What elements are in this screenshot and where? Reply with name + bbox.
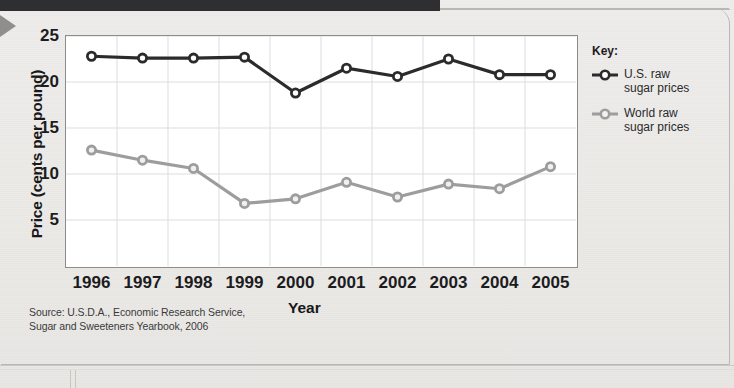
- legend-item-us-raw-sugar-prices: U.S. raw sugar prices: [592, 67, 730, 95]
- x-axis-tick-label: 2002: [379, 273, 417, 293]
- data-point: [138, 156, 146, 164]
- data-point: [393, 72, 401, 80]
- data-point: [546, 71, 554, 79]
- y-axis-tick-label: 5: [50, 210, 59, 230]
- data-point: [393, 193, 401, 201]
- data-point: [444, 55, 452, 63]
- chart-legend: Key: U.S. raw sugar prices World raw sug…: [592, 44, 730, 145]
- x-axis-tick-label: 1997: [124, 273, 162, 293]
- x-axis-tick-label: 1996: [73, 273, 111, 293]
- x-axis-title: Year: [288, 299, 321, 317]
- data-point: [240, 53, 248, 61]
- y-axis-tick-label: 25: [40, 26, 59, 46]
- x-axis-tick-label: 2001: [328, 273, 366, 293]
- x-axis-tick-label: 2003: [430, 273, 468, 293]
- legend-marker-light-icon: [592, 107, 618, 121]
- y-axis-tick-label: 20: [40, 72, 59, 92]
- data-point: [342, 64, 350, 72]
- data-point: [495, 71, 503, 79]
- source-line-2: Sugar and Sweeteners Yearbook, 2006: [29, 319, 245, 333]
- legend-label-world: World raw sugar prices: [624, 106, 689, 134]
- legend-marker-dark-icon: [592, 68, 618, 82]
- plot-svg: [66, 36, 576, 266]
- data-point: [138, 54, 146, 62]
- data-point: [291, 195, 299, 203]
- x-axis-tick-label: 1998: [175, 273, 213, 293]
- data-point: [342, 178, 350, 186]
- y-axis-title: Price (cents per pound): [28, 29, 46, 279]
- data-point: [291, 89, 299, 97]
- plot-area: 5101520251996199719981999200020012002200…: [65, 35, 578, 268]
- y-axis-tick-label: 10: [40, 164, 59, 184]
- legend-item-world-raw-sugar-prices: World raw sugar prices: [592, 106, 730, 134]
- x-axis-tick-label: 2000: [277, 273, 315, 293]
- y-axis-tick-label: 15: [40, 118, 59, 138]
- legend-label-us: U.S. raw sugar prices: [624, 67, 689, 95]
- data-point: [189, 164, 197, 172]
- data-point: [546, 163, 554, 171]
- x-axis-tick-label: 1999: [226, 273, 264, 293]
- source-line-1: Source: U.S.D.A., Economic Research Serv…: [29, 305, 245, 319]
- data-point: [87, 146, 95, 154]
- x-axis-tick-label: 2005: [532, 273, 570, 293]
- legend-title: Key:: [592, 44, 730, 58]
- x-axis-tick-label: 2004: [481, 273, 519, 293]
- data-point: [444, 180, 452, 188]
- source-note: Source: U.S.D.A., Economic Research Serv…: [29, 305, 245, 333]
- line-chart: Price (cents per pound) 5101520251996199…: [0, 0, 734, 388]
- data-point: [240, 199, 248, 207]
- data-point: [189, 54, 197, 62]
- data-point: [495, 185, 503, 193]
- data-point: [87, 52, 95, 60]
